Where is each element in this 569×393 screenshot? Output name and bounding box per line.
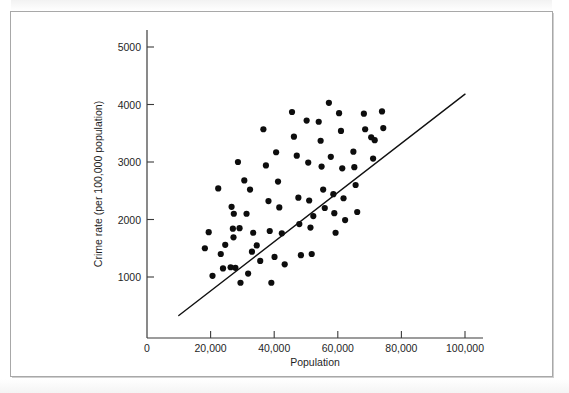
data-point [326, 100, 332, 106]
data-point [218, 251, 224, 257]
data-point [294, 153, 300, 159]
data-point [243, 211, 249, 217]
data-point [380, 125, 386, 131]
data-point [206, 229, 212, 235]
data-point [247, 187, 253, 193]
data-point [338, 128, 344, 134]
data-point [291, 134, 297, 140]
data-point [370, 155, 376, 161]
data-point [336, 110, 342, 116]
figure-root: 10002000300040005000 020,00040,00060,000… [0, 0, 569, 393]
data-point [289, 109, 295, 115]
data-points-group [202, 100, 387, 286]
data-point [273, 149, 279, 155]
x-axis-ticks: 020,00040,00060,00080,000100,000 [144, 331, 484, 354]
data-point [331, 210, 337, 216]
data-point [263, 162, 269, 168]
x-tick-label: 80,000 [385, 342, 417, 354]
data-point [320, 187, 326, 193]
data-point [235, 159, 241, 165]
x-tick-label: 100,000 [446, 342, 484, 354]
data-point [230, 226, 236, 232]
data-point [222, 242, 228, 248]
scatter-plot: 10002000300040005000 020,00040,00060,000… [0, 0, 569, 393]
data-point [379, 108, 385, 114]
data-point [350, 149, 356, 155]
x-tick-label: 60,000 [322, 342, 354, 354]
data-point [249, 249, 255, 255]
data-point [309, 251, 315, 257]
trend-line [179, 94, 465, 315]
data-point [322, 205, 328, 211]
y-tick-label: 2000 [118, 214, 142, 226]
data-point [265, 198, 271, 204]
data-point [260, 126, 266, 132]
data-point [351, 164, 357, 170]
data-point [318, 164, 324, 170]
x-axis-title: Population [290, 356, 340, 368]
data-point [245, 270, 251, 276]
data-point [353, 182, 359, 188]
data-point [339, 165, 345, 171]
data-point [209, 273, 215, 279]
data-point [271, 254, 277, 260]
data-point [236, 225, 242, 231]
data-point [267, 228, 273, 234]
y-tick-label: 3000 [118, 156, 142, 168]
data-point [231, 211, 237, 217]
data-point [307, 224, 313, 230]
data-point [276, 204, 282, 210]
data-point [318, 138, 324, 144]
data-point [340, 195, 346, 201]
data-point [268, 280, 274, 286]
data-point [332, 230, 338, 236]
data-point [282, 261, 288, 267]
data-point [342, 217, 348, 223]
data-point [328, 154, 334, 160]
data-point [230, 234, 236, 240]
data-point [257, 258, 263, 264]
y-tick-label: 4000 [118, 99, 142, 111]
y-axis-title: Crime rate (per 100,000 population) [92, 101, 104, 267]
data-point [237, 280, 243, 286]
data-point [241, 177, 247, 183]
y-tick-label: 1000 [118, 271, 142, 283]
data-point [228, 204, 234, 210]
trend-line-group [179, 94, 465, 315]
data-point [298, 252, 304, 258]
data-point [215, 185, 221, 191]
data-point [354, 209, 360, 215]
data-point [295, 195, 301, 201]
data-point [250, 230, 256, 236]
axes-group [147, 30, 483, 338]
data-point [202, 245, 208, 251]
x-tick-label: 0 [144, 342, 150, 354]
data-point [275, 178, 281, 184]
data-point [316, 119, 322, 125]
data-point [361, 111, 367, 117]
x-tick-label: 40,000 [258, 342, 290, 354]
data-point [254, 242, 260, 248]
y-axis-ticks: 10002000300040005000 [118, 41, 154, 283]
x-tick-label: 20,000 [195, 342, 227, 354]
data-point [305, 159, 311, 165]
data-point [362, 126, 368, 132]
data-point [306, 197, 312, 203]
data-point [372, 137, 378, 143]
data-point [304, 118, 310, 124]
y-tick-label: 5000 [118, 41, 142, 53]
data-point [220, 265, 226, 271]
